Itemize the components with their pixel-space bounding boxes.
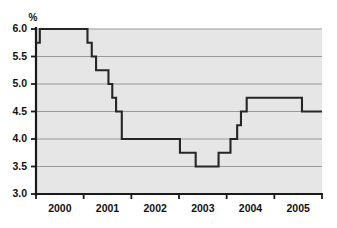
y-tick-label-5.0: 5.0	[12, 77, 27, 89]
x-tick-label-2003: 2003	[191, 202, 215, 214]
y-tick-label-3.0: 3.0	[12, 187, 27, 199]
y-tick-label-6.0: 6.0	[12, 22, 27, 34]
y-tick-label-4.5: 4.5	[12, 105, 27, 117]
x-tick-label-2002: 2002	[143, 202, 167, 214]
x-tick-label-2000: 2000	[48, 202, 72, 214]
x-tick-label-2001: 2001	[96, 202, 120, 214]
chart-container: % 6.05.55.04.54.03.53.0 2000200120022003…	[0, 0, 337, 228]
step-line-chart: % 6.05.55.04.54.03.53.0 2000200120022003…	[0, 0, 337, 228]
y-tick-label-4.0: 4.0	[12, 132, 27, 144]
y-axis-unit-label: %	[29, 12, 38, 23]
y-tick-label-3.5: 3.5	[12, 160, 27, 172]
x-tick-label-2004: 2004	[239, 202, 263, 214]
x-tick-label-2005: 2005	[286, 202, 310, 214]
y-tick-label-5.5: 5.5	[12, 50, 27, 62]
